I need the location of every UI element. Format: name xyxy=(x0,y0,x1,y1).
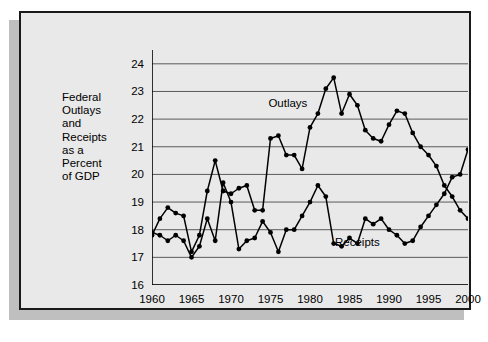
data-point xyxy=(181,213,186,218)
x-tick-label: 2000 xyxy=(448,293,488,305)
series-annotation-receipts: Receipts xyxy=(335,236,380,248)
data-point xyxy=(260,219,265,224)
y-tick-label: 24 xyxy=(120,58,144,70)
data-point xyxy=(331,75,336,80)
data-point xyxy=(434,202,439,207)
data-point xyxy=(355,103,360,108)
data-point xyxy=(181,238,186,243)
data-point xyxy=(379,216,384,221)
x-tick-label: 1980 xyxy=(290,293,330,305)
series-annotation-outlays: Outlays xyxy=(268,97,307,109)
data-point xyxy=(395,233,400,238)
y-tick-label: 23 xyxy=(120,85,144,97)
x-tick-label: 1960 xyxy=(132,293,172,305)
data-point xyxy=(252,208,257,213)
data-point xyxy=(197,233,202,238)
data-point xyxy=(205,216,210,221)
y-tick-label: 18 xyxy=(120,224,144,236)
x-tick-label: 1985 xyxy=(330,293,370,305)
y-tick-label: 20 xyxy=(120,168,144,180)
data-point xyxy=(165,205,170,210)
data-point xyxy=(205,189,210,194)
data-point xyxy=(308,200,313,205)
data-point xyxy=(363,128,368,133)
data-point xyxy=(276,249,281,254)
y-tick-label: 16 xyxy=(120,279,144,291)
data-point xyxy=(316,183,321,188)
data-point xyxy=(268,136,273,141)
plot-svg xyxy=(152,50,468,285)
data-point xyxy=(316,111,321,116)
data-point xyxy=(426,213,431,218)
data-point xyxy=(268,230,273,235)
data-point xyxy=(165,238,170,243)
y-tick-label: 17 xyxy=(120,251,144,263)
y-tick-label: 19 xyxy=(120,196,144,208)
data-point xyxy=(323,194,328,199)
data-point xyxy=(292,227,297,232)
data-point xyxy=(237,186,242,191)
data-point xyxy=(347,92,352,97)
data-point xyxy=(418,144,423,149)
data-point xyxy=(284,227,289,232)
data-point xyxy=(173,211,178,216)
data-point xyxy=(158,216,163,221)
data-point xyxy=(458,208,463,213)
chart-panel: Federal Outlays and Receipts as a Percen… xyxy=(19,11,471,310)
data-point xyxy=(410,238,415,243)
data-point xyxy=(442,191,447,196)
data-point xyxy=(260,208,265,213)
data-point xyxy=(308,125,313,130)
data-point xyxy=(221,180,226,185)
x-tick-label: 1990 xyxy=(369,293,409,305)
data-point xyxy=(292,153,297,158)
data-point xyxy=(173,233,178,238)
data-point xyxy=(418,225,423,230)
data-point xyxy=(237,247,242,252)
data-point xyxy=(213,158,218,163)
data-point xyxy=(371,222,376,227)
x-tick-label: 1965 xyxy=(172,293,212,305)
data-point xyxy=(339,111,344,116)
data-point xyxy=(197,244,202,249)
chart-figure: Federal Outlays and Receipts as a Percen… xyxy=(0,0,488,342)
data-point xyxy=(213,238,218,243)
data-point xyxy=(244,238,249,243)
data-point xyxy=(300,213,305,218)
data-point xyxy=(284,153,289,158)
data-point xyxy=(229,200,234,205)
data-point xyxy=(402,241,407,246)
data-point xyxy=(458,172,463,177)
data-point xyxy=(229,191,234,196)
data-point xyxy=(466,147,468,152)
data-point xyxy=(379,139,384,144)
data-point xyxy=(276,133,281,138)
data-point xyxy=(426,153,431,158)
data-point xyxy=(387,122,392,127)
x-tick-label: 1975 xyxy=(251,293,291,305)
data-point xyxy=(323,86,328,91)
data-point xyxy=(442,183,447,188)
data-point xyxy=(363,216,368,221)
data-point xyxy=(450,175,455,180)
y-tick-label: 21 xyxy=(120,141,144,153)
plot-area: 1617181920212223241960196519701975198019… xyxy=(152,50,468,285)
data-point xyxy=(395,108,400,113)
data-point xyxy=(300,166,305,171)
data-point xyxy=(402,111,407,116)
data-point xyxy=(434,164,439,169)
data-point xyxy=(410,131,415,136)
data-point xyxy=(158,233,163,238)
y-tick-label: 22 xyxy=(120,113,144,125)
data-point xyxy=(371,136,376,141)
x-tick-label: 1970 xyxy=(211,293,251,305)
data-point xyxy=(244,183,249,188)
data-point xyxy=(387,227,392,232)
data-point xyxy=(450,194,455,199)
x-tick-label: 1995 xyxy=(409,293,449,305)
data-point xyxy=(189,255,194,260)
data-point xyxy=(252,236,257,241)
